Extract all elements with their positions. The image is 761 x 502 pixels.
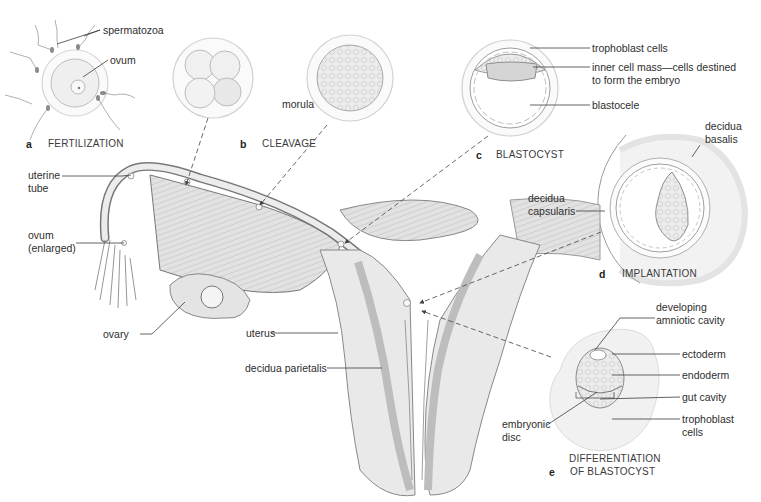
label-ectoderm: ectoderm (682, 348, 726, 361)
panel-letter-b: b (240, 138, 246, 150)
uterus-and-tube-illustration (95, 166, 600, 495)
panel-letter-d: d (599, 268, 605, 280)
label-blastocele: blastocele (592, 99, 639, 112)
label-ovary: ovary (103, 328, 129, 341)
label-trophoblast-cells: trophoblast cells (592, 42, 668, 55)
label-developing-amniotic-cavity: developing amniotic cavity (656, 301, 725, 327)
four-cell-stage-illustration (173, 38, 253, 118)
panel-letter-e: e (549, 466, 555, 478)
caption-fertilization: FERTILIZATION (48, 138, 124, 149)
caption-blastocyst: BLASTOCYST (496, 149, 564, 160)
panel-letter-a: a (26, 138, 32, 150)
label-ovum: ovum (110, 54, 136, 67)
caption-implantation: IMPLANTATION (622, 268, 697, 279)
fertilization-illustration (5, 20, 135, 140)
morula-illustration (307, 35, 393, 121)
label-gut-cavity: gut cavity (682, 391, 726, 404)
label-decidua-capsularis: decidua capsularis (528, 192, 575, 218)
label-uterus: uterus (246, 327, 275, 340)
implantation-illustration (598, 135, 745, 283)
caption-cleavage: CLEAVAGE (262, 138, 316, 149)
label-spermatozoa: spermatozoa (103, 24, 164, 37)
label-decidua-basalis: decidua basalis (705, 120, 742, 146)
panel-letter-c: c (476, 149, 482, 161)
label-ovum-enlarged: ovum (enlarged) (28, 229, 76, 255)
differentiation-illustration (550, 329, 659, 450)
caption-differentiation-line1: DIFFERENTIATION (569, 453, 661, 464)
label-trophoblast-cells-e: trophoblast cells (682, 413, 734, 439)
label-embryonic-disc: embryonic disc (502, 418, 550, 444)
label-inner-cell-mass: inner cell mass—cells destined to form t… (592, 61, 736, 87)
label-decidua-parietalis: decidua parietalis (245, 362, 327, 375)
label-uterine-tube: uterine tube (28, 169, 60, 195)
label-endoderm: endoderm (682, 369, 729, 382)
caption-differentiation-line2: OF BLASTOCYST (570, 466, 655, 477)
label-morula: morula (282, 98, 314, 111)
blastocyst-illustration (462, 40, 558, 136)
